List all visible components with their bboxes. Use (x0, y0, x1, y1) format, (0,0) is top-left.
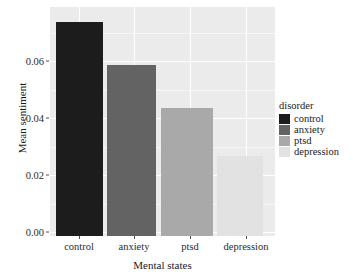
x-tick-label-anxiety: anxiety (119, 241, 150, 252)
y-tick-mark-2 (46, 118, 49, 119)
bar-chart: Mean sentiment 0.00 0.02 0.04 0.06 (0, 0, 353, 279)
legend-label-control: control (294, 113, 324, 124)
x-tick-mark-0 (79, 236, 80, 239)
legend-swatch-anxiety-icon (279, 125, 290, 135)
legend-swatch-control-icon (279, 114, 290, 124)
y-tick-mark-3 (46, 61, 49, 62)
x-tick-label-depression: depression (224, 241, 269, 252)
y-tick-mark-1 (46, 175, 49, 176)
y-tick-mark-0 (46, 232, 49, 233)
y-tick-label-3: 0.06 (14, 56, 44, 67)
y-tick-label-0: 0.00 (14, 227, 44, 238)
legend-item-control[interactable]: control (279, 113, 353, 124)
legend-swatch-depression-icon (279, 147, 290, 157)
y-axis-tick-labels: 0.00 0.02 0.04 0.06 (14, 0, 44, 279)
x-axis-title: Mental states (50, 259, 275, 271)
bar-ptsd (161, 108, 213, 236)
bar-anxiety (107, 65, 156, 236)
legend-label-depression: depression (294, 146, 339, 157)
x-tick-mark-3 (246, 236, 247, 239)
x-tick-mark-1 (134, 236, 135, 239)
legend: disorder control anxiety ptsd depression (279, 100, 353, 157)
legend-swatch-ptsd-icon (279, 136, 290, 146)
legend-item-ptsd[interactable]: ptsd (279, 135, 353, 146)
legend-item-depression[interactable]: depression (279, 146, 353, 157)
y-tick-label-2: 0.04 (14, 113, 44, 124)
y-tick-label-1: 0.02 (14, 170, 44, 181)
legend-item-anxiety[interactable]: anxiety (279, 124, 353, 135)
legend-label-ptsd: ptsd (294, 135, 312, 146)
x-axis: control anxiety ptsd depression (50, 236, 275, 256)
plot-panel (50, 7, 275, 236)
x-tick-mark-2 (190, 236, 191, 239)
x-tick-label-ptsd: ptsd (181, 241, 199, 252)
legend-title: disorder (279, 100, 353, 111)
bar-depression (217, 156, 263, 236)
bar-control (56, 22, 103, 236)
legend-label-anxiety: anxiety (294, 124, 325, 135)
x-tick-label-control: control (64, 241, 94, 252)
